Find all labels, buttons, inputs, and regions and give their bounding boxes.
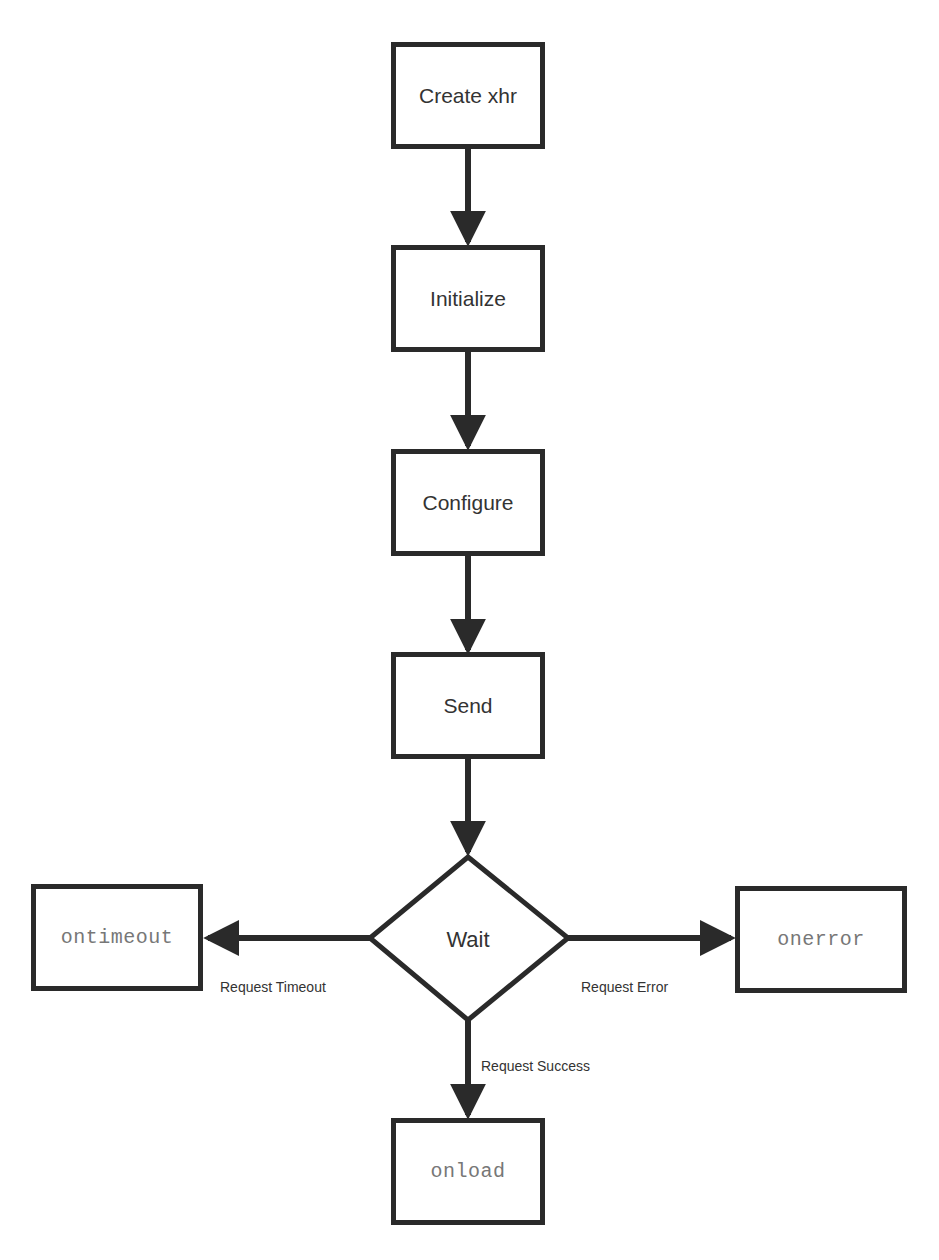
node-wait-label: Wait bbox=[446, 927, 489, 953]
node-send-label: Send bbox=[443, 694, 492, 718]
flowchart-connectors bbox=[0, 0, 939, 1260]
node-initialize: Initialize bbox=[391, 245, 545, 352]
node-onerror: onerror bbox=[735, 886, 907, 993]
node-create-xhr-label: Create xhr bbox=[419, 84, 517, 108]
edge-label-request-error: Request Error bbox=[581, 979, 668, 995]
edge-label-request-timeout: Request Timeout bbox=[220, 979, 326, 995]
node-send: Send bbox=[391, 652, 545, 759]
node-configure-label: Configure bbox=[422, 491, 513, 515]
node-ontimeout: ontimeout bbox=[31, 884, 203, 991]
node-configure: Configure bbox=[391, 449, 545, 556]
node-create-xhr: Create xhr bbox=[391, 42, 545, 149]
node-onload-label: onload bbox=[430, 1160, 505, 1183]
edge-label-request-success: Request Success bbox=[481, 1058, 590, 1074]
node-onload: onload bbox=[391, 1118, 545, 1225]
flowchart-canvas: Create xhr Initialize Configure Send Wai… bbox=[0, 0, 939, 1260]
node-ontimeout-label: ontimeout bbox=[61, 926, 174, 949]
node-onerror-label: onerror bbox=[777, 928, 865, 951]
node-initialize-label: Initialize bbox=[430, 287, 506, 311]
